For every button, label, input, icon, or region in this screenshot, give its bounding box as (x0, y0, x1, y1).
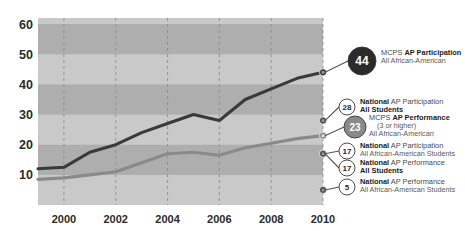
legend-badge-value: 44 (355, 54, 369, 68)
legend-badge-value: 17 (343, 147, 352, 156)
legend-badge-value: 23 (349, 122, 361, 133)
x-axis-tick-label: 2006 (207, 213, 231, 225)
legend-badge-value: 5 (345, 183, 350, 192)
legend-badge-value: 17 (343, 164, 352, 173)
legend-label-line3: All African-American (369, 129, 434, 138)
data-point-marker-core (322, 119, 325, 122)
legend-label-line2: All African-American Students (360, 149, 455, 158)
background-band (38, 54, 323, 84)
data-point-marker-core (322, 71, 325, 74)
background-band (38, 84, 323, 114)
data-point-marker-core (322, 134, 325, 137)
y-axis-tick-label: 50 (19, 48, 33, 62)
background-band (38, 18, 323, 24)
y-axis-tick-label: 60 (19, 18, 33, 32)
legend-badge-value: 28 (343, 103, 352, 112)
x-axis-tick-label: 2010 (311, 213, 335, 225)
y-axis-tick-label: 40 (19, 78, 33, 92)
y-axis-tick-label: 30 (19, 108, 33, 122)
data-point-marker-core (322, 152, 325, 155)
background-band (38, 175, 323, 205)
data-point-marker-core (322, 188, 325, 191)
x-axis-tick-label: 2008 (259, 213, 283, 225)
x-axis-tick-label: 2000 (52, 213, 76, 225)
x-axis-tick-label: 2002 (103, 213, 127, 225)
ap-participation-line-chart: 102030405060 200020022004200620082010 44… (0, 0, 465, 231)
legend-label-line2: All African-American (381, 56, 446, 65)
y-axis-tick-label: 10 (19, 168, 33, 182)
background-band (38, 145, 323, 175)
legend-label-line2: All Students (360, 166, 403, 175)
legend-label-line2: All African-American Students (360, 185, 455, 194)
x-axis-tick-label: 2004 (155, 213, 180, 225)
y-axis-tick-label: 20 (19, 138, 33, 152)
chart-container: 102030405060 200020022004200620082010 44… (0, 0, 465, 231)
background-band (38, 24, 323, 54)
